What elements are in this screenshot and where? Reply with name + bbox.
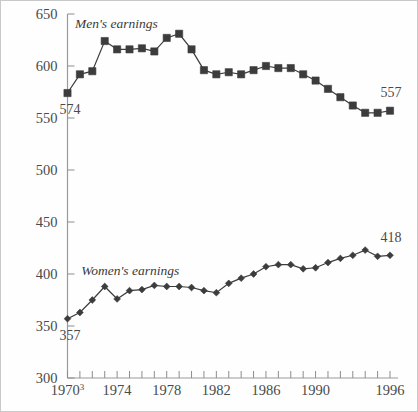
data-point-women: [300, 265, 307, 272]
data-point-women: [238, 275, 245, 282]
series-label-women: Women's earnings: [81, 263, 179, 278]
data-point-women: [362, 247, 369, 254]
x-axis-tick-label: 1996: [376, 382, 405, 398]
data-point-men: [176, 30, 183, 37]
series-label-men: Men's earnings: [74, 16, 158, 31]
x-axis-tick-label: 1990: [301, 382, 330, 398]
data-point-women: [387, 252, 394, 259]
data-point-women: [337, 255, 344, 262]
data-point-men: [386, 107, 393, 114]
data-point-women: [139, 286, 146, 293]
data-point-women: [201, 287, 208, 294]
y-axis-tick-label: 450: [36, 214, 58, 230]
data-point-men: [64, 89, 71, 96]
data-point-women: [275, 261, 282, 268]
annotation-men-start: 574: [59, 102, 80, 117]
data-point-women: [374, 253, 381, 260]
data-point-women: [151, 282, 158, 289]
data-point-women: [250, 271, 257, 278]
chart-svg: 3003504004505005506006501970319741978198…: [1, 1, 418, 412]
data-point-men: [151, 48, 158, 55]
data-point-men: [138, 45, 145, 52]
data-point-men: [312, 77, 319, 84]
data-point-men: [337, 94, 344, 101]
data-point-women: [176, 283, 183, 290]
y-axis-tick-label: 350: [36, 318, 58, 334]
data-point-women: [263, 263, 270, 270]
data-point-women: [64, 315, 71, 322]
data-point-men: [324, 85, 331, 92]
chart-figure: 3003504004505005506006501970319741978198…: [0, 0, 418, 412]
y-axis-tick-label: 650: [36, 6, 58, 22]
data-point-men: [238, 71, 245, 78]
data-point-men: [76, 71, 83, 78]
data-point-women: [349, 252, 356, 259]
data-point-women: [325, 259, 332, 266]
data-point-men: [374, 109, 381, 116]
x-axis-tick-label: 1982: [202, 382, 231, 398]
data-point-men: [188, 46, 195, 53]
y-axis-tick-label: 400: [36, 266, 58, 282]
data-point-women: [163, 283, 170, 290]
y-axis-tick-label: 550: [36, 110, 58, 126]
data-point-men: [114, 46, 121, 53]
data-point-men: [300, 71, 307, 78]
x-axis-tick-label: 1986: [251, 382, 280, 398]
data-point-men: [362, 109, 369, 116]
data-point-men: [225, 69, 232, 76]
data-point-men: [163, 34, 170, 41]
data-point-men: [287, 64, 294, 71]
data-point-men: [250, 67, 257, 74]
annotation-men-end: 557: [381, 85, 402, 100]
data-point-men: [213, 71, 220, 78]
y-axis-tick-label: 500: [36, 162, 58, 178]
data-point-women: [312, 264, 319, 271]
annotation-women-start: 357: [59, 328, 80, 343]
annotation-women-end: 418: [381, 230, 402, 245]
data-point-men: [349, 102, 356, 109]
data-point-women: [188, 284, 195, 291]
data-point-women: [126, 287, 133, 294]
data-point-men: [89, 68, 96, 75]
data-point-men: [101, 37, 108, 44]
data-point-men: [275, 64, 282, 71]
x-axis-tick-label: 1974: [103, 382, 133, 398]
y-axis-tick-label: 600: [36, 58, 58, 74]
x-axis-tick-label: 19703: [51, 382, 85, 398]
chart-plot-area: 3003504004505005506006501970319741978198…: [1, 1, 418, 412]
data-point-men: [262, 62, 269, 69]
x-axis-tick-label: 1978: [152, 382, 181, 398]
data-point-men: [200, 67, 207, 74]
data-point-women: [287, 261, 294, 268]
data-point-men: [126, 46, 133, 53]
